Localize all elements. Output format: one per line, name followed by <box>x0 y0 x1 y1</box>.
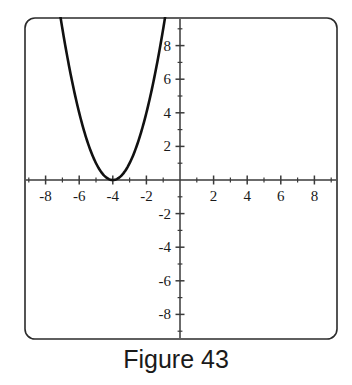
plot-frame: -8-6-4-224688642-2-4-6-8 <box>24 17 338 340</box>
x-tick-label: 8 <box>311 188 319 204</box>
x-tick-label: 4 <box>243 188 251 204</box>
y-tick-label: -4 <box>159 239 172 255</box>
figure-caption: Figure 43 <box>0 345 352 374</box>
x-tick-label: 6 <box>277 188 285 204</box>
x-tick-label: -6 <box>73 188 86 204</box>
y-tick-label: -6 <box>159 273 172 289</box>
y-tick-label: 4 <box>164 105 172 121</box>
y-tick-label: 8 <box>164 38 172 54</box>
y-tick-label: 6 <box>164 71 172 87</box>
plot-border <box>25 18 337 339</box>
y-tick-label: 2 <box>164 138 172 154</box>
figure-container: -8-6-4-224688642-2-4-6-8 Figure 43 <box>0 0 352 385</box>
x-tick-label: 2 <box>210 188 218 204</box>
x-tick-label: -2 <box>140 188 153 204</box>
x-tick-label: -4 <box>107 188 120 204</box>
x-tick-label: -8 <box>39 188 52 204</box>
coordinate-plane: -8-6-4-224688642-2-4-6-8 <box>24 17 338 340</box>
y-tick-label: -8 <box>159 306 172 322</box>
y-tick-label: -2 <box>159 206 172 222</box>
